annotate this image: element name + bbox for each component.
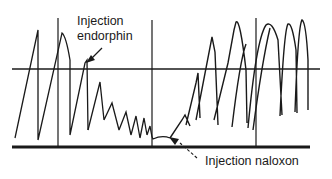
endorphin-label-line-1: Injection [77, 14, 133, 29]
endorphin-label-line-2: endorphin [77, 29, 133, 44]
trace-phase-1 [15, 30, 88, 140]
naloxon-label-line-1: Injection naloxon [205, 154, 299, 169]
trace-phase-3 [152, 137, 170, 139]
endorphin-injection-label: Injection endorphin [77, 14, 133, 44]
recording-figure: Injection endorphin Injection naloxon [0, 0, 332, 179]
trace-phase-4 [170, 20, 308, 138]
trace-phase-2 [88, 82, 152, 138]
naloxon-injection-label: Injection naloxon [205, 154, 299, 169]
endorphin-arrow [86, 48, 102, 63]
trace-plot [0, 0, 332, 179]
